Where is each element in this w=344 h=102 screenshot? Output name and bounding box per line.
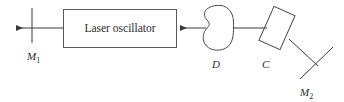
detector-d-shape bbox=[203, 5, 233, 50]
mirror-m1-label-sub: 1 bbox=[36, 56, 40, 65]
beam-c-to-m2 bbox=[289, 39, 318, 66]
detector-d-label: D bbox=[211, 58, 220, 70]
mirror-m2-label-sub: 2 bbox=[309, 92, 313, 101]
mirror-m2-label: M2 bbox=[299, 86, 313, 101]
diagram-canvas: Laser oscillator M1 D C M2 bbox=[0, 0, 344, 102]
mirror-m1-label: M1 bbox=[26, 50, 40, 65]
crystal-c-shape bbox=[259, 6, 295, 49]
mirror-m2-surface bbox=[300, 47, 333, 79]
laser-oscillator-label: Laser oscillator bbox=[84, 22, 155, 34]
crystal-c-label: C bbox=[262, 58, 270, 70]
optical-setup-figure: Laser oscillator M1 D C M2 bbox=[0, 0, 344, 102]
